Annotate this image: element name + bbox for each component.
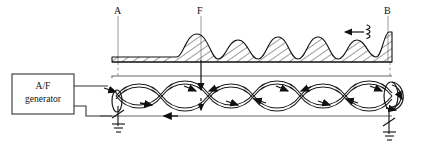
- marker-label-F: F: [197, 6, 203, 16]
- end-loops: [112, 82, 403, 112]
- lead-bottom: [74, 106, 112, 116]
- ground-right: [383, 110, 396, 140]
- marker-label-A: A: [114, 6, 121, 16]
- transmission-line-rails: [100, 76, 392, 116]
- figure-root: A F B A/F generator: [0, 0, 433, 145]
- marker-label-B: B: [384, 6, 391, 16]
- top-rail: [112, 76, 392, 78]
- generator-leads: [74, 86, 112, 116]
- generator-label-line2: generator: [13, 93, 73, 105]
- standing-wave-lobes: [116, 81, 392, 111]
- incident-wave-direction-marker: [345, 25, 370, 39]
- standing-wave-diagram: [0, 0, 433, 145]
- amplitude-envelope: [112, 32, 392, 62]
- generator-label-line1: A/F: [13, 80, 73, 92]
